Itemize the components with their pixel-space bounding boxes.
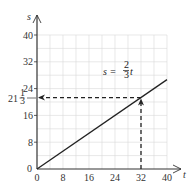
- x-tick-labels: 0816243240: [35, 172, 173, 183]
- x-tick-label: 16: [84, 172, 94, 183]
- x-tick-label: 32: [136, 172, 146, 183]
- y-tick-label: 16: [23, 110, 33, 121]
- formula-denominator: 3: [124, 69, 129, 80]
- line-chart: t s 0816243240 816243240 0 s = 2 3 t 21 …: [0, 0, 192, 183]
- origin-y-label: 0: [27, 163, 32, 174]
- x-tick-label: 8: [61, 172, 66, 183]
- formula-variable: t: [130, 66, 133, 77]
- grid: [37, 35, 167, 169]
- equation-label: s = 2 3 t: [103, 59, 133, 80]
- highlight-whole: 21: [8, 93, 18, 104]
- y-tick-label: 8: [28, 137, 33, 148]
- formula-lhs: s =: [103, 66, 116, 77]
- x-axis-label: t: [183, 169, 186, 180]
- y-tick-label: 40: [23, 30, 33, 41]
- x-tick-label: 40: [162, 172, 172, 183]
- y-axis-label: s: [27, 11, 31, 22]
- x-tick-label: 0: [35, 172, 40, 183]
- y-tick-label: 32: [23, 56, 33, 67]
- highlight-denominator: 3: [20, 95, 25, 106]
- x-tick-label: 24: [110, 172, 120, 183]
- y-tick-labels: 816243240: [23, 30, 37, 148]
